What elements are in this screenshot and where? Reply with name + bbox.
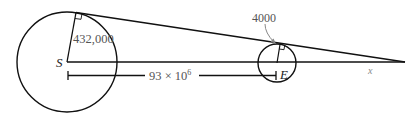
umbra-geometry-diagram: 432,000 S E 4000 93 × 106 x — [0, 0, 416, 123]
earth-radius-leader-arrow — [265, 24, 274, 42]
earth-label: E — [279, 67, 288, 82]
earth-radius-label: 4000 — [252, 11, 276, 25]
tangent-line — [76, 13, 405, 63]
apex-distance-label: x — [367, 65, 373, 76]
distance-label: 93 × 106 — [149, 68, 191, 83]
earth-radius-line — [277, 45, 280, 64]
sun-label: S — [56, 55, 63, 70]
sun-radius-label: 432,000 — [73, 32, 114, 46]
